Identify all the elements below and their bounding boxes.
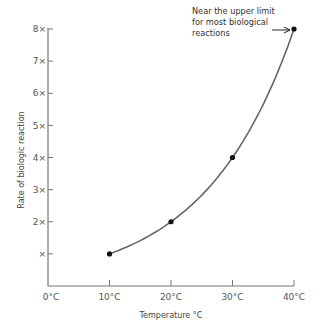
x-tick-label: 40°C (283, 292, 305, 302)
y-tick-label: 7× (33, 56, 46, 66)
annotation-text-line: Near the upper limit (192, 6, 276, 16)
annotation-text-line: for most biological (192, 17, 268, 27)
data-point-marker (230, 155, 235, 160)
x-tick-label: 20°C (160, 292, 182, 302)
y-tick-label: 4× (33, 153, 46, 163)
y-tick-label: 2× (33, 217, 46, 227)
annotation-text-line: reactions (192, 28, 230, 38)
y-axis-ticks: ×2×3×4×5×6×7×8× (33, 24, 53, 259)
x-axis-title: Temperature °C (139, 311, 203, 320)
y-tick-label: 6× (33, 88, 46, 98)
data-points (107, 26, 297, 256)
x-axis-ticks: 0°C10°C20°C30°C40°C (43, 280, 305, 302)
annotation-upper-limit: Near the upper limitfor most biologicalr… (192, 6, 290, 38)
rate-curve (110, 29, 295, 254)
data-point-marker (107, 251, 112, 256)
y-tick-label: 5× (33, 121, 46, 131)
x-tick-label: 30°C (221, 292, 243, 302)
data-point-marker (291, 26, 296, 31)
y-tick-label: × (38, 249, 46, 259)
axes (48, 28, 294, 286)
y-tick-label: 8× (33, 24, 46, 34)
rate-vs-temperature-chart: ×2×3×4×5×6×7×8× 0°C10°C20°C30°C40°C Near… (0, 0, 323, 329)
x-tick-label: 0°C (43, 292, 60, 302)
data-point-marker (168, 219, 173, 224)
x-tick-label: 10°C (98, 292, 120, 302)
y-axis-title: Rate of biologic reaction (17, 111, 26, 208)
y-tick-label: 3× (33, 185, 46, 195)
